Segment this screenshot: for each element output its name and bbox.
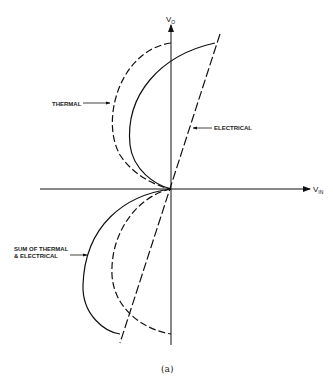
y-axis-label: VO xyxy=(166,15,175,25)
thermal-curve-lower xyxy=(112,189,171,334)
sum-label-line1: SUM OF THERMAL xyxy=(14,246,69,252)
sum-curve-lower xyxy=(83,189,171,334)
figure-caption: (a) xyxy=(161,364,173,374)
x-axis-label: VIN xyxy=(313,185,324,195)
thermal-curve-upper xyxy=(112,43,171,189)
sum-curve-upper xyxy=(130,43,215,189)
sum-label-line2: & ELECTRICAL xyxy=(14,253,58,259)
transfer-curve-diagram: VO VIN THERMAL ELECTRICAL SUM OF THERMAL… xyxy=(0,0,333,387)
electrical-label: ELECTRICAL xyxy=(214,125,252,131)
thermal-label: THERMAL xyxy=(52,101,82,107)
